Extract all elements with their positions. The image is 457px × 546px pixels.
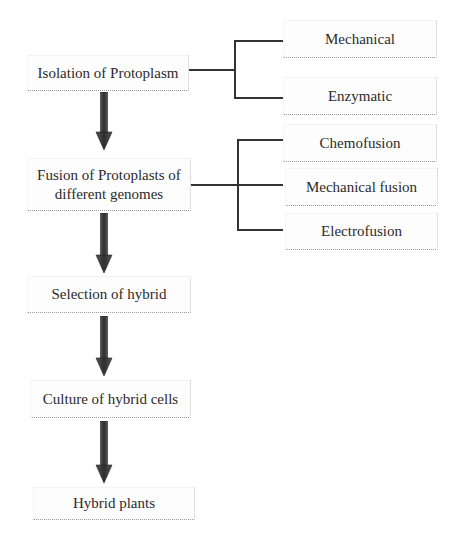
step-isolation-box: Isolation of Protoplasm: [27, 55, 189, 91]
method-mechanical-box: Mechanical: [283, 20, 437, 58]
method-electrofusion-box: Electrofusion: [285, 213, 438, 250]
connector-isolation-stem: [189, 69, 235, 71]
step-isolation-label: Isolation of Protoplasm: [38, 64, 179, 83]
step-culture-box: Culture of hybrid cells: [30, 380, 191, 418]
connector-fusion-bottom-branch: [237, 229, 283, 231]
connector-fusion-vertical: [237, 139, 239, 230]
step-selection-box: Selection of hybrid: [27, 276, 191, 313]
method-electrofusion-label: Electrofusion: [321, 222, 402, 241]
step-fusion-label: Fusion of Protoplasts of different genom…: [37, 166, 181, 204]
method-enzymatic-box: Enzymatic: [283, 77, 437, 115]
step-hybrid-plants-label: Hybrid plants: [73, 494, 155, 513]
method-chemofusion-box: Chemofusion: [283, 124, 437, 162]
method-enzymatic-label: Enzymatic: [328, 87, 392, 106]
step-culture-label: Culture of hybrid cells: [43, 390, 178, 409]
step-hybrid-plants-box: Hybrid plants: [33, 487, 195, 520]
method-mechanical-label: Mechanical: [325, 30, 395, 49]
down-arrow-icon: [94, 316, 114, 376]
connector-isolation-bottom-branch: [234, 97, 283, 99]
method-mechanical-fusion-box: Mechanical fusion: [285, 168, 438, 206]
method-mechanical-fusion-label: Mechanical fusion: [306, 178, 417, 197]
connector-isolation-top-branch: [234, 40, 283, 42]
down-arrow-icon: [94, 421, 114, 483]
step-selection-label: Selection of hybrid: [52, 285, 167, 304]
step-fusion-box: Fusion of Protoplasts of different genom…: [27, 158, 191, 211]
method-chemofusion-label: Chemofusion: [320, 134, 401, 153]
connector-fusion-top-branch: [237, 139, 283, 141]
connector-isolation-vertical: [234, 40, 236, 98]
down-arrow-icon: [94, 92, 114, 150]
down-arrow-icon: [94, 213, 114, 273]
